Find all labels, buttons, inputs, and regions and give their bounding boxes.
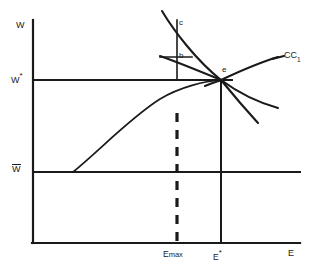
emax-subscript: max	[169, 250, 183, 259]
wstar-letter: W	[11, 75, 20, 85]
y-tick-label-wstar: W*	[11, 73, 23, 85]
x-tick-label-estar: E*	[213, 250, 222, 261]
point-label-e: e	[222, 66, 226, 74]
point-label-b: b	[179, 52, 183, 60]
wstar-asterisk: *	[20, 71, 23, 80]
estar-letter: E	[213, 252, 219, 262]
figure-canvas: W W* W Emax E* E c b e CC1	[0, 0, 317, 271]
y-axis-label: W	[16, 21, 25, 30]
curve-label-cc1: CC1	[284, 51, 301, 62]
indifference-curve-b	[160, 56, 258, 123]
x-axis-label: E	[288, 249, 294, 258]
cc1-subscript: 1	[297, 56, 301, 63]
effort-curve	[73, 80, 221, 172]
point-label-c: c	[179, 19, 183, 27]
estar-asterisk: *	[219, 248, 222, 257]
y-tick-label-wbar: W	[12, 164, 21, 174]
cc1-leader-line	[272, 56, 284, 59]
x-tick-label-emax: Emax	[163, 250, 183, 259]
wbar-letter: W	[12, 164, 21, 174]
cc1-curve	[205, 57, 278, 86]
cc1-letters: CC	[284, 50, 297, 60]
wage-effort-diagram	[0, 0, 317, 271]
